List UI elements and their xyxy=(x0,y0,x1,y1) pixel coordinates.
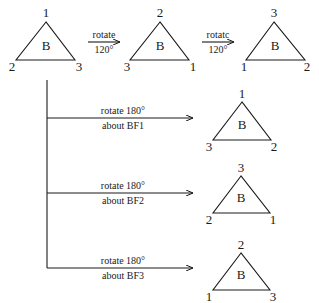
branch-label-bottom: about BF1 xyxy=(102,120,144,131)
arrow-label-top: rotatc xyxy=(207,29,230,40)
branch-bf1: rotate 180° about BF1 1 3 2 B xyxy=(47,86,277,154)
vertex-left-label: 2 xyxy=(9,59,16,74)
triangle-rotated-120: 2 3 1 B xyxy=(124,5,197,74)
vertex-right-label: 3 xyxy=(270,289,277,303)
vertex-top-label: 1 xyxy=(239,86,246,101)
vertex-left-label: 3 xyxy=(124,59,131,74)
center-label: B xyxy=(238,117,247,132)
symmetry-diagram: 1 2 3 B rotate 120° 2 3 1 B rotatc 120° … xyxy=(0,0,319,303)
center-label: B xyxy=(42,38,51,53)
branch-bf3: rotate 180° about BF3 2 1 3 B xyxy=(47,237,276,303)
branch-label-bottom: about BF2 xyxy=(102,195,144,206)
vertex-left-label: 1 xyxy=(206,289,213,303)
vertex-right-label: 3 xyxy=(76,59,83,74)
vertex-right-label: 1 xyxy=(190,59,197,74)
arrow-label-bottom: 120° xyxy=(95,44,114,55)
vertex-left-label: 1 xyxy=(241,59,248,74)
vertex-top-label: 1 xyxy=(43,5,50,20)
vertex-top-label: 3 xyxy=(271,5,278,20)
center-label: B xyxy=(237,190,246,205)
rotate-arrow-1: rotate 120° xyxy=(88,29,120,55)
vertex-right-label: 1 xyxy=(270,212,277,227)
triangle-rotated-240: 3 1 2 B xyxy=(241,5,311,74)
triangle-initial: 1 2 3 B xyxy=(9,5,83,74)
arrow-label-top: rotate xyxy=(93,29,116,40)
center-label: B xyxy=(156,38,165,53)
center-label: B xyxy=(271,38,280,53)
vertex-right-label: 2 xyxy=(304,59,311,74)
arrow-label-bottom: 120° xyxy=(209,44,228,55)
vertex-left-label: 2 xyxy=(206,212,213,227)
vertex-top-label: 2 xyxy=(238,237,245,252)
branch-label-bottom: about BF3 xyxy=(102,270,144,281)
branch-bf2: rotate 180° about BF2 3 2 1 B xyxy=(47,160,276,227)
branch-label-top: rotate 180° xyxy=(101,255,145,266)
vertex-right-label: 2 xyxy=(271,139,278,154)
branch-label-top: rotate 180° xyxy=(101,105,145,116)
vertex-left-label: 3 xyxy=(206,139,213,154)
rotate-arrow-2: rotatc 120° xyxy=(202,29,234,55)
center-label: B xyxy=(237,267,246,282)
vertex-top-label: 2 xyxy=(157,5,164,20)
branch-label-top: rotate 180° xyxy=(101,180,145,191)
vertex-top-label: 3 xyxy=(238,160,245,175)
